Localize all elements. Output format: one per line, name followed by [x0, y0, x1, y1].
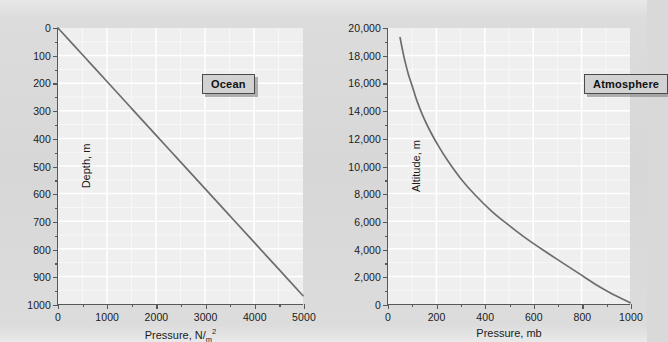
y-tick [385, 180, 388, 181]
y-tick [385, 153, 388, 154]
x-tick [181, 304, 182, 307]
x-tick [156, 304, 157, 309]
y-tick-label: 900 [33, 271, 51, 283]
y-tick [385, 97, 388, 98]
y-tick [383, 222, 388, 223]
y-tick [385, 42, 388, 43]
y-tick [383, 56, 388, 57]
x-tick [279, 304, 280, 307]
y-tick-label: 1000 [27, 299, 51, 311]
x-tick [631, 304, 632, 309]
y-tick [383, 83, 388, 84]
panel-ocean: 0100200300400500600700800900100001000200… [0, 0, 323, 342]
y-tick [385, 70, 388, 71]
y-tick [55, 125, 58, 126]
y-tick-label: 100 [33, 50, 51, 62]
y-tick-label: 2,000 [354, 271, 381, 283]
axis-title-y-atmosphere: Altitude, m [410, 140, 422, 192]
y-tick-label: 600 [33, 188, 51, 200]
x-tick-label: 3000 [194, 311, 218, 323]
y-tick [385, 236, 388, 237]
y-tick [53, 194, 58, 195]
y-tick-label: 4,000 [354, 244, 381, 256]
x-tick-label: 200 [428, 311, 446, 323]
y-tick [53, 83, 58, 84]
y-tick [55, 97, 58, 98]
y-tick-label: 500 [33, 161, 51, 173]
curve-ocean [58, 28, 303, 304]
y-tick [53, 28, 58, 29]
x-tick [558, 304, 559, 307]
x-tick [510, 304, 511, 307]
y-tick-label: 400 [33, 133, 51, 145]
axis-title-x-atmosphere: Pressure, mb [476, 327, 541, 339]
x-tick [304, 304, 305, 309]
y-tick [53, 139, 58, 140]
y-tick-label: 6,000 [354, 216, 381, 228]
x-tick-label: 1000 [95, 311, 119, 323]
y-tick [383, 194, 388, 195]
y-tick-label: 20,000 [348, 22, 381, 34]
y-tick-label: 8,000 [354, 188, 381, 200]
x-tick-label: 800 [573, 311, 591, 323]
x-tick-label: 1000 [619, 311, 643, 323]
x-tick [132, 304, 133, 307]
y-tick [55, 291, 58, 292]
y-tick [53, 111, 58, 112]
y-tick [385, 263, 388, 264]
x-tick-label: 600 [525, 311, 543, 323]
legend-atmosphere: Atmosphere [584, 74, 668, 94]
axis-title-x-ocean: Pressure, N/m2 [145, 327, 217, 342]
y-tick [53, 277, 58, 278]
y-tick [55, 208, 58, 209]
y-tick [383, 167, 388, 168]
y-tick-label: 18,000 [348, 50, 381, 62]
y-tick [53, 222, 58, 223]
x-tick [485, 304, 486, 309]
x-tick [388, 304, 389, 309]
y-tick-label: 12,000 [348, 133, 381, 145]
x-tick-label: 0 [55, 311, 61, 323]
y-tick [383, 277, 388, 278]
y-tick-label: 700 [33, 216, 51, 228]
y-tick [385, 291, 388, 292]
y-tick [55, 180, 58, 181]
y-tick [55, 263, 58, 264]
y-tick-label: 300 [33, 105, 51, 117]
panel-atmosphere: 02,0004,0006,0008,00010,00012,00014,0001… [324, 0, 647, 342]
x-tick [582, 304, 583, 309]
x-tick [437, 304, 438, 309]
x-tick [607, 304, 608, 307]
x-tick [230, 304, 231, 307]
x-tick-label: 4000 [243, 311, 267, 323]
y-tick-label: 16,000 [348, 77, 381, 89]
y-tick-label: 800 [33, 244, 51, 256]
y-tick [383, 111, 388, 112]
y-tick [385, 208, 388, 209]
y-tick-label: 200 [33, 77, 51, 89]
y-tick [55, 236, 58, 237]
x-tick [534, 304, 535, 309]
y-tick-label: 0 [375, 299, 381, 311]
curve-atmosphere [388, 28, 630, 304]
axis-title-y-ocean: Depth, m [80, 144, 92, 189]
y-tick-label: 10,000 [348, 161, 381, 173]
y-tick [383, 28, 388, 29]
y-tick [55, 42, 58, 43]
legend-ocean: Ocean [202, 74, 255, 94]
x-tick [255, 304, 256, 309]
x-tick-label: 400 [476, 311, 494, 323]
y-tick [383, 139, 388, 140]
plot-area-atmosphere: 02,0004,0006,0008,00010,00012,00014,0001… [387, 28, 630, 305]
plot-area-ocean: 0100200300400500600700800900100001000200… [57, 28, 303, 305]
x-tick [58, 304, 59, 309]
y-tick [53, 56, 58, 57]
x-tick-label: 5000 [292, 311, 316, 323]
y-tick [385, 125, 388, 126]
x-tick [206, 304, 207, 309]
x-tick [107, 304, 108, 309]
x-tick [461, 304, 462, 307]
x-tick [412, 304, 413, 307]
y-tick [383, 250, 388, 251]
